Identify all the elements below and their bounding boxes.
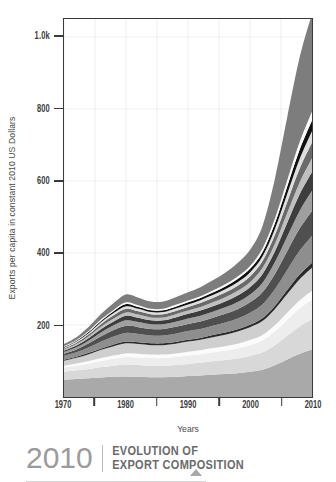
- y-axis-tick-label: 800: [37, 103, 54, 113]
- x-axis-minor-tick: [218, 398, 220, 406]
- x-axis-minor-tick: [156, 398, 158, 406]
- y-axis-tick-mark: [54, 325, 63, 327]
- x-axis-tick-label: 2010: [305, 400, 322, 410]
- footer-inner: 2010 EVOLUTION OF EXPORT COMPOSITION: [26, 442, 244, 474]
- y-axis-tick-mark: [54, 35, 63, 37]
- y-axis-tick-label: 600: [37, 176, 54, 186]
- x-axis-title: Years: [63, 424, 313, 434]
- footer-title-line-2: EXPORT COMPOSITION: [112, 458, 244, 473]
- x-axis-tick: 2010: [305, 398, 322, 408]
- y-axis-tick-label: 200: [37, 321, 54, 331]
- y-axis-tick-mark: [54, 252, 63, 254]
- triangle-up-icon: [190, 469, 202, 476]
- x-axis-tick-mark: [281, 398, 283, 406]
- y-axis-tick-label: 400: [37, 248, 54, 258]
- footer-title-line-1: EVOLUTION OF: [112, 444, 244, 459]
- x-axis-ticks: 19701980199020002010: [63, 398, 313, 420]
- x-axis-tick: 1970: [55, 398, 72, 408]
- x-axis-tick: 1990: [180, 398, 197, 408]
- chart-footer: 2010 EVOLUTION OF EXPORT COMPOSITION: [0, 440, 336, 482]
- x-axis-tick-label: 1980: [117, 400, 134, 410]
- x-axis-minor-tick: [281, 398, 283, 406]
- chart-region: Exports per capita in constant 2010 US D…: [0, 0, 336, 420]
- y-axis-tick-label: 1.0k: [35, 31, 54, 41]
- plot-area: [63, 18, 313, 398]
- x-axis-minor-tick: [93, 398, 95, 406]
- x-axis-tick-mark: [93, 398, 95, 406]
- footer-title: EVOLUTION OF EXPORT COMPOSITION: [103, 442, 244, 471]
- y-axis-ticks: 2004006008001.0k: [0, 18, 63, 398]
- x-axis-tick-mark: [156, 398, 158, 406]
- x-axis-tick-label: 1990: [180, 400, 197, 410]
- y-axis-tick-mark: [54, 180, 63, 182]
- x-axis-tick-label: 2000: [242, 400, 259, 410]
- x-axis-tick: 2000: [242, 398, 259, 408]
- x-axis-tick-label: 1970: [55, 400, 72, 410]
- y-axis-tick-mark: [54, 108, 63, 110]
- chart-page: Exports per capita in constant 2010 US D…: [0, 0, 336, 482]
- x-axis-tick-mark: [218, 398, 220, 406]
- stacked-area-plot: [64, 19, 312, 397]
- x-axis-tick: 1980: [117, 398, 134, 408]
- footer-year: 2010: [26, 442, 102, 474]
